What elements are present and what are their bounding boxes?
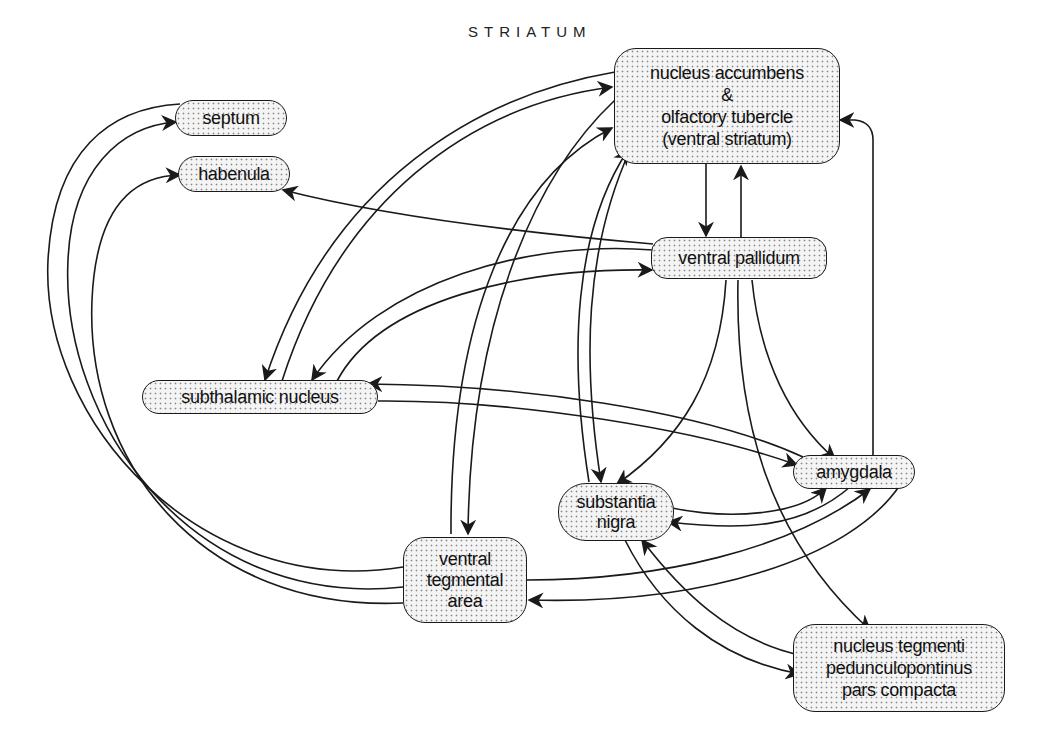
node-habenula: habenula — [178, 156, 290, 192]
node-nucleus-accumbens: nucleus accumbens & olfactory tubercle (… — [614, 48, 840, 164]
node-label: amygdala — [816, 462, 892, 483]
node-label: subthalamic nucleus — [181, 387, 338, 408]
node-ventral-tegmental-area: ventral tegmental area — [403, 537, 527, 623]
node-amygdala: amygdala — [793, 455, 915, 489]
edge-vta-to-septum-inner — [68, 122, 403, 589]
edge-sn-to-na — [578, 150, 628, 482]
node-label: septum — [202, 108, 259, 129]
node-septum: septum — [175, 100, 287, 136]
node-substantia-nigra: substantia nigra — [558, 483, 674, 541]
edge-sn-to-amygdala — [672, 488, 826, 514]
node-ventral-pallidum: ventral pallidum — [651, 237, 827, 279]
edge-na-to-sn — [590, 150, 630, 482]
node-label: nucleus accumbens & olfactory tubercle (… — [650, 62, 804, 150]
edge-stn-to-vp — [337, 270, 652, 381]
edge-vp-to-sn — [617, 280, 726, 484]
edge-amygdala-to-na — [840, 120, 873, 458]
node-label: nucleus tegmenti pedunculopontinus pars … — [826, 635, 972, 701]
edge-stn-to-na — [282, 87, 612, 381]
edge-vp-to-stn — [312, 249, 653, 380]
diagram-title: STRIATUM — [468, 23, 592, 40]
node-label: ventral pallidum — [678, 248, 799, 269]
node-label: ventral tegmental area — [427, 549, 503, 612]
edge-sn-to-ntpp — [625, 540, 800, 674]
edge-na-to-vta — [468, 100, 615, 534]
edge-stn-to-amygdala — [378, 401, 797, 465]
node-label: substantia nigra — [576, 492, 655, 532]
edge-amygdala-to-sn — [668, 487, 850, 526]
node-subthalamic-nucleus: subthalamic nucleus — [142, 380, 378, 414]
node-nucleus-tegmenti-pedunculopontinus: nucleus tegmenti pedunculopontinus pars … — [793, 624, 1005, 712]
edge-vp-to-amygdala — [752, 280, 835, 459]
edge-na-to-stn — [265, 72, 615, 380]
diagram-canvas: STRIATUM nucleus accumbens & olfactory t… — [0, 0, 1051, 735]
node-label: habenula — [198, 164, 270, 185]
